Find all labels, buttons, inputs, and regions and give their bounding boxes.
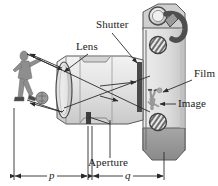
aperture-blade bbox=[86, 112, 91, 124]
dim-label-p: p bbox=[47, 170, 57, 181]
lens-barrel-group bbox=[56, 56, 143, 124]
barrel-top-notch bbox=[80, 57, 110, 62]
label-aperture: Aperture bbox=[88, 157, 128, 168]
film-spool-top bbox=[150, 37, 167, 54]
label-film: Film bbox=[194, 68, 215, 79]
player-shoe-left bbox=[14, 97, 24, 101]
viewfinder-inner bbox=[152, 10, 163, 21]
camera-edge-shade bbox=[180, 28, 185, 128]
label-image: Image bbox=[178, 98, 206, 109]
player-head bbox=[20, 51, 28, 61]
camera-optics-figure: Shutter Lens Film Image Aperture p q bbox=[0, 0, 218, 186]
film-spool-bottom bbox=[150, 114, 167, 131]
image-shoe-left bbox=[148, 89, 152, 91]
object-soccer-player bbox=[13, 51, 48, 104]
label-lens: Lens bbox=[76, 41, 98, 52]
label-shutter: Shutter bbox=[96, 19, 128, 30]
camera-body-group bbox=[143, 4, 185, 160]
dim-label-q: q bbox=[123, 170, 133, 181]
dim-arrow-q-right bbox=[157, 173, 163, 178]
player-shoe-right bbox=[28, 95, 36, 101]
image-soccer-ball bbox=[157, 88, 162, 93]
dim-arrow-p-right bbox=[81, 173, 87, 178]
player-leg-right bbox=[23, 79, 33, 97]
image-head bbox=[150, 106, 153, 110]
shutter-bar bbox=[137, 62, 142, 112]
dim-arrow-q-left bbox=[93, 173, 99, 178]
dim-arrow-p-left bbox=[15, 173, 21, 178]
